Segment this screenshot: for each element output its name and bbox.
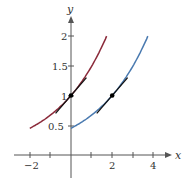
x-axis-label: x — [175, 149, 182, 162]
x-tick-label: −2 — [24, 160, 39, 171]
y-axis-label: y — [66, 3, 74, 16]
x-axis-arrow-icon — [165, 152, 172, 158]
y-tick-label: 1.5 — [52, 61, 68, 72]
chart: x y −2 2 4 0.5 1 1.5 2 — [0, 0, 190, 186]
x-tick-label: 2 — [109, 160, 115, 171]
red-curve — [30, 36, 107, 128]
points — [69, 93, 115, 98]
point-marker — [69, 93, 74, 98]
point-marker — [110, 93, 115, 98]
y-tick-label: 2 — [61, 31, 67, 42]
y-axis-arrow-icon — [68, 16, 74, 23]
x-tick-label: 4 — [150, 160, 156, 171]
y-tick-label: 0.5 — [48, 121, 64, 132]
